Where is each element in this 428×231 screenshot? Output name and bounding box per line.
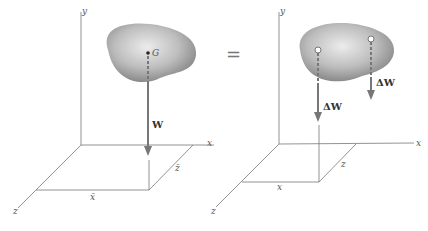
dw-label-2: ΔW: [376, 77, 396, 88]
dw-arrow-1-icon: [314, 112, 322, 122]
dw-label-1: ΔW: [323, 101, 343, 112]
center-of-gravity-diagram: G W y z x̄ z̄ = ΔW ΔW y x: [0, 0, 428, 231]
dw-arrow-2-icon: [367, 90, 375, 100]
element-point-2-icon: [368, 36, 374, 42]
left-y-label: y: [81, 6, 88, 16]
z-coord-label: z: [340, 159, 346, 169]
left-panel: G W y z x̄ z̄: [12, 6, 214, 216]
g-point-icon: [146, 51, 150, 55]
w-label: W: [151, 119, 164, 130]
g-label: G: [152, 48, 159, 58]
right-y-label: y: [279, 6, 286, 16]
right-panel: ΔW ΔW y x z x z: [210, 6, 421, 216]
body-blob-right: [300, 23, 394, 81]
w-arrow-icon: [144, 146, 152, 156]
x-bar-label: x̄: [90, 192, 95, 202]
right-floor-rect: [242, 125, 356, 182]
right-z-label: z: [210, 206, 216, 216]
left-z-label: z: [12, 206, 18, 216]
element-point-1-icon: [315, 47, 321, 53]
left-floor-rect: [36, 145, 193, 190]
z-bar-label: z̄: [174, 163, 180, 173]
equals-sign: =: [226, 43, 241, 64]
left-x-label: x: [207, 138, 212, 148]
x-coord-label: x: [277, 182, 282, 192]
right-x-label: x: [416, 138, 421, 148]
